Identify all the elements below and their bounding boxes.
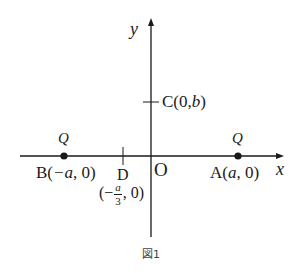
figure-caption: 図1 <box>142 249 160 260</box>
point-d-coords: (−a3, 0) <box>99 182 144 207</box>
point-a-prefix: A( <box>210 163 228 182</box>
point-b-prefix: B( <box>36 163 53 182</box>
origin-label: O <box>154 160 168 179</box>
point-c-prefix: C(0, <box>162 92 192 111</box>
point-d-fraction: a3 <box>114 182 122 207</box>
x-axis-label: x <box>276 160 284 178</box>
point-a-charge: Q <box>232 131 243 146</box>
point-d-frac-num: a <box>114 182 122 195</box>
axes-drawing <box>0 0 303 273</box>
point-c-var: b <box>192 92 201 111</box>
point-c-suffix: ) <box>200 92 206 111</box>
y-axis-arrow-icon <box>148 18 154 26</box>
point-b-label: B(−a, 0) <box>36 164 96 181</box>
point-d-close: , 0) <box>123 184 144 201</box>
point-a-label: A(a, 0) <box>210 164 259 181</box>
point-d-frac-den: 3 <box>115 195 121 207</box>
coordinate-diagram: y x O C(0,b) Q Q B(−a, 0) A(a, 0) D (−a3… <box>0 0 303 273</box>
point-b-dot <box>60 152 67 159</box>
point-b-charge: Q <box>58 131 69 146</box>
point-b-suffix: , 0) <box>73 163 96 182</box>
point-c-label: C(0,b) <box>162 93 206 110</box>
point-b-var: −a <box>53 163 73 182</box>
point-d-open: (− <box>99 184 113 201</box>
point-a-dot <box>234 152 241 159</box>
y-axis-label: y <box>130 20 138 38</box>
point-a-suffix: , 0) <box>236 163 259 182</box>
